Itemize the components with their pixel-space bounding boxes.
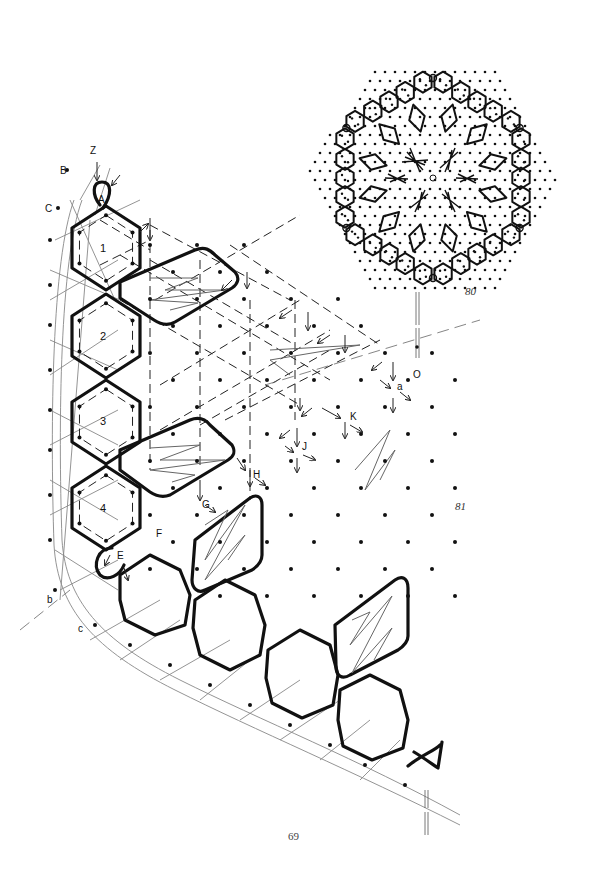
hex-label-3: 3 <box>100 415 106 427</box>
center-pin-o <box>430 175 436 181</box>
label-o: O <box>413 369 421 380</box>
label-z: Z <box>90 145 96 156</box>
diamond-tallies <box>120 248 408 677</box>
label-f: F <box>156 528 162 539</box>
label-h: H <box>253 469 260 480</box>
ground-dashed-lines <box>100 215 380 500</box>
hex-label-2: 2 <box>100 330 106 342</box>
hex-label-4: 4 <box>100 502 106 514</box>
lace-pricking-diagram: 80 <box>0 0 589 891</box>
figure-80-label: 80 <box>465 285 477 297</box>
end-loop <box>408 742 442 768</box>
label-a-upper: A <box>98 194 105 205</box>
figure-80: 80 <box>309 71 557 358</box>
label-k: K <box>350 411 357 422</box>
figure-81-label: 81 <box>455 500 466 512</box>
label-c-lower: c <box>78 623 83 634</box>
direction-arrows <box>97 162 410 580</box>
bottom-hexagons <box>120 555 408 760</box>
label-a-lower: a <box>397 381 403 392</box>
label-b-lower: b <box>47 594 53 605</box>
figure-80-center-leaves <box>385 148 478 212</box>
label-g: G <box>202 499 210 510</box>
label-j: J <box>302 441 307 452</box>
label-e: E <box>117 550 124 561</box>
figure-80-ground-dots <box>309 71 557 290</box>
figure-81: Z B C A E F G H J K a b c O 1 2 3 4 81 <box>20 145 480 835</box>
page-number: 69 <box>288 830 300 842</box>
hex-label-1: 1 <box>100 242 106 254</box>
label-c-upper: C <box>45 203 52 214</box>
label-b-upper: B <box>60 165 67 176</box>
